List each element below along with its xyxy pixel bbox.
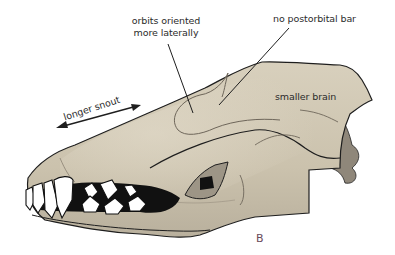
label-brain: smaller brain (275, 91, 336, 103)
panel-label: B (256, 233, 263, 245)
label-orbits-line2: more laterally (126, 27, 206, 39)
skull-diagram: orbits oriented more laterally no postor… (0, 0, 395, 255)
label-postorbital-bar: no postorbital bar (273, 13, 356, 25)
label-orbits-line1: orbits oriented (126, 15, 206, 27)
label-orbits: orbits oriented more laterally (126, 15, 206, 39)
